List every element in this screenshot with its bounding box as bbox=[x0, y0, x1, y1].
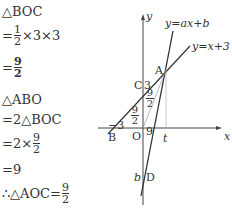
point-C-label: C bbox=[134, 79, 142, 92]
fraction-right: 9 2 bbox=[146, 88, 154, 109]
numerator: 9 bbox=[132, 105, 138, 115]
point-O-label: O bbox=[132, 130, 141, 143]
point-A-label: A bbox=[155, 64, 163, 77]
point-D-label: D bbox=[146, 171, 155, 184]
line2-label: y=x+3 bbox=[192, 40, 230, 53]
denominator: 2 bbox=[147, 99, 153, 109]
point-B-label: B bbox=[108, 131, 116, 144]
y-axis-arrow-icon bbox=[141, 14, 145, 20]
x-axis-label: x bbox=[224, 130, 230, 143]
coordinate-graph bbox=[0, 0, 232, 211]
denominator: 2 bbox=[132, 116, 138, 126]
x-axis-arrow-icon bbox=[216, 126, 222, 130]
line1-label: y=ax+b bbox=[165, 17, 209, 30]
label-b: b bbox=[134, 171, 141, 184]
y-axis-label: y bbox=[146, 10, 152, 23]
label-t: t bbox=[163, 132, 167, 145]
label-9: 9 bbox=[146, 125, 153, 138]
fraction-left: 9 2 bbox=[131, 105, 139, 126]
numerator: 9 bbox=[147, 88, 153, 98]
